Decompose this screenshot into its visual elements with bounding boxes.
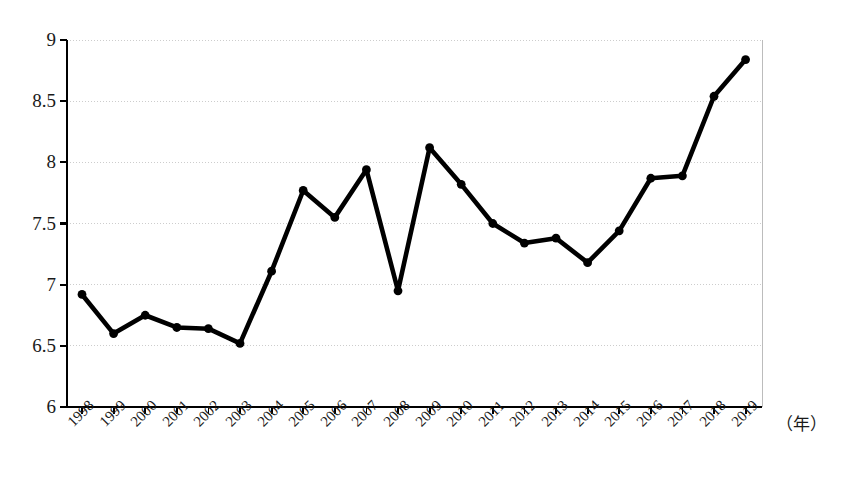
data-point-markers <box>78 55 750 348</box>
data-point-2015 <box>615 226 624 235</box>
data-point-2007 <box>362 165 371 174</box>
data-point-1998 <box>78 290 87 299</box>
data-point-2008 <box>394 286 403 295</box>
data-point-2017 <box>678 171 687 180</box>
y-tick-label-7: 7 <box>12 275 56 294</box>
line-chart: 66.577.588.59 19981999200020012002200320… <box>0 0 842 488</box>
data-point-2011 <box>488 219 497 228</box>
y-tick-label-9: 9 <box>12 30 56 49</box>
y-tick-label-7.5: 7.5 <box>12 214 56 233</box>
data-point-2014 <box>583 258 592 267</box>
data-point-2002 <box>204 324 213 333</box>
y-tick-label-8: 8 <box>12 152 56 171</box>
data-point-2005 <box>299 186 308 195</box>
data-point-2004 <box>267 267 276 276</box>
data-point-2001 <box>172 323 181 332</box>
data-point-2009 <box>425 143 434 152</box>
data-point-2018 <box>710 92 719 101</box>
data-point-2019 <box>741 55 750 64</box>
data-point-2006 <box>330 213 339 222</box>
y-tick-label-8.5: 8.5 <box>12 91 56 110</box>
x-axis-unit-label: （年） <box>776 410 827 435</box>
y-tick-label-6: 6 <box>12 397 56 416</box>
y-tick-label-6.5: 6.5 <box>12 336 56 355</box>
data-point-1999 <box>109 329 118 338</box>
data-point-2012 <box>520 239 529 248</box>
data-point-2010 <box>457 180 466 189</box>
data-point-2013 <box>552 234 561 243</box>
data-line-series <box>82 60 746 344</box>
data-point-2000 <box>141 311 150 320</box>
data-point-2003 <box>236 339 245 348</box>
data-point-2016 <box>646 174 655 183</box>
